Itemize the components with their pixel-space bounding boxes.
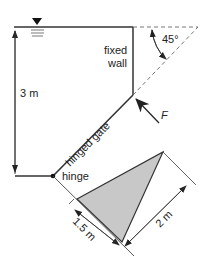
hinged-gate: hinged gate	[53, 95, 133, 176]
force-arrow: F	[136, 99, 169, 123]
angle-indicator: 45°	[152, 30, 179, 59]
angle-label: 45°	[162, 33, 179, 45]
base-label: 1.5 m	[71, 215, 99, 243]
fixed-wall-label-2: wall	[107, 57, 127, 69]
fixed-wall: fixed wall	[104, 27, 133, 95]
depth-label: 3 m	[20, 87, 38, 99]
gate-diagram: 3 m fixed wall 45° F hinged gate hinge	[0, 0, 208, 267]
gate-label: hinged gate	[63, 119, 112, 168]
force-label: F	[161, 109, 169, 121]
depth-dimension: 3 m	[15, 31, 38, 174]
water-surface	[14, 18, 133, 36]
hinge-label: hinge	[62, 170, 89, 182]
water-level-icon	[32, 18, 42, 25]
fixed-wall-label-1: fixed	[104, 44, 127, 56]
height-label: 2 m	[153, 208, 174, 229]
